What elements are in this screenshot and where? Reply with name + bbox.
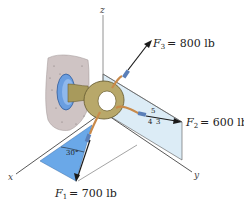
slope-rise: 3: [156, 118, 160, 126]
y-axis-label: y: [193, 170, 200, 180]
z-axis-label: z: [99, 5, 105, 15]
angle-label: 30°: [66, 149, 78, 157]
diagram-canvas: z y x: [0, 0, 244, 202]
slope-hyp: 5: [151, 107, 155, 115]
f3-arrow-shaft: [128, 44, 148, 70]
slope-run: 4: [148, 118, 153, 126]
x-axis-label: x: [8, 172, 13, 182]
ring-hole: [98, 91, 116, 111]
f1-label: F1= 700 lb: [54, 187, 117, 201]
f3-label: F3= 800 lb: [152, 37, 215, 51]
f2-label: F2= 600 lb: [185, 116, 244, 130]
force-diagram: z y x: [0, 0, 244, 202]
